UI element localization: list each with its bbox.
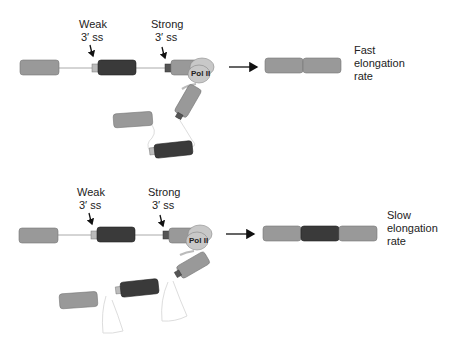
weak-3ss-label-line2: 3′ ss — [81, 31, 104, 43]
product-alternative-exon — [301, 226, 339, 241]
rna-loop — [162, 281, 187, 321]
exon-1 — [19, 228, 58, 243]
alternative-exon — [98, 60, 136, 75]
product-exon-1 — [265, 58, 303, 73]
panel-slow: Weak 3′ ss Strong 3′ ss Pol II — [19, 186, 438, 333]
strong-3ss-label-line2: 3′ ss — [155, 31, 178, 43]
nascent-rna-stub — [180, 251, 194, 255]
outcome-label-line2: elongation — [387, 222, 438, 234]
weak-ss-pointer-arrow — [90, 45, 93, 56]
splicing-diagram: Weak 3′ ss Strong 3′ ss Pol II — [0, 0, 450, 349]
looped-alternative-exon — [115, 279, 159, 298]
strong-3ss-label-line1: Strong — [148, 186, 180, 198]
panel-fast: Weak 3′ ss Strong 3′ ss Pol II — [20, 18, 405, 159]
outcome-label-line2: elongation — [354, 57, 405, 69]
nascent-exon-3 — [172, 84, 202, 122]
product-exon-3 — [339, 226, 377, 241]
rna-loop — [102, 296, 123, 333]
pol-ii-label: Pol II — [189, 236, 208, 245]
outcome-label-line3: rate — [387, 235, 406, 247]
pol-ii-label: Pol II — [191, 69, 210, 78]
weak-ss-pointer-arrow — [89, 213, 92, 224]
strong-ss-pointer-arrow — [162, 47, 165, 58]
product-exon-1 — [263, 226, 301, 241]
outcome-label-line1: Fast — [354, 44, 375, 56]
alternative-exon — [97, 227, 135, 242]
looped-exon-1 — [59, 291, 98, 309]
product-exon-3 — [303, 58, 341, 73]
weak-3ss-label-line1: Weak — [77, 186, 105, 198]
strong-ss-pointer-arrow — [160, 215, 163, 226]
rna-loop — [148, 122, 154, 151]
strong-3ss-label-line1: Strong — [151, 18, 183, 30]
weak-3ss-label-line1: Weak — [79, 18, 107, 30]
looped-alternative-exon — [149, 141, 193, 159]
strong-3ss-label-line2: 3′ ss — [152, 199, 175, 211]
nascent-exon-3 — [172, 251, 210, 281]
weak-3ss-label-line2: 3′ ss — [79, 199, 102, 211]
exon-1 — [20, 60, 59, 75]
looped-exon-1 — [113, 111, 153, 128]
outcome-label-line3: rate — [354, 70, 373, 82]
outcome-label-line1: Slow — [387, 209, 411, 221]
